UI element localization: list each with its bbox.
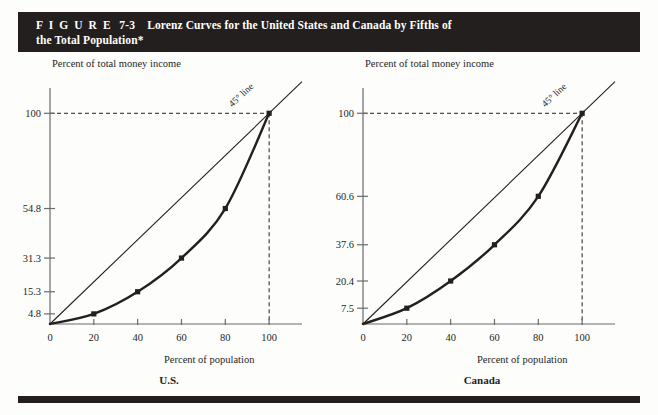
- bottom-rule: [18, 396, 640, 403]
- data-point-marker: [404, 306, 409, 311]
- y-tick-label: 7.5: [341, 303, 354, 314]
- data-point-marker: [135, 289, 140, 294]
- y-tick-label: 37.6: [336, 239, 354, 250]
- figure-page: F I G U R E7-3Lorenz Curves for the Unit…: [0, 0, 658, 415]
- figure-word-label: F I G U R E: [36, 19, 112, 31]
- figure-title-banner: F I G U R E7-3Lorenz Curves for the Unit…: [18, 12, 640, 52]
- x-tick-label: 40: [132, 332, 143, 343]
- y-tick-label: 15.3: [23, 286, 41, 297]
- figure-title-line-1: Lorenz Curves for the United States and …: [147, 19, 451, 31]
- y-tick-label: 54.8: [23, 203, 41, 214]
- figure-title-line-2: the Total Population*: [36, 34, 144, 46]
- equality-line: [50, 82, 302, 324]
- lorenz-plot-us: 4.815.331.354.810002040608010045° line: [14, 58, 324, 358]
- x-tick-label: 80: [533, 332, 544, 343]
- data-point-marker: [223, 206, 228, 211]
- chart-panel-us: Percent of total money income 4.815.331.…: [14, 58, 324, 393]
- x-tick-label: 60: [176, 332, 187, 343]
- data-point-marker: [536, 194, 541, 199]
- x-tick-label: 60: [489, 332, 500, 343]
- y-tick-label: 100: [338, 108, 354, 119]
- equality-line: [363, 82, 615, 324]
- data-point-marker: [492, 242, 497, 247]
- y-tick-label: 31.3: [23, 253, 41, 264]
- lorenz-plot-canada: 7.520.437.660.610002040608010045° line: [327, 58, 637, 358]
- y-tick-label: 4.8: [28, 308, 41, 319]
- svg-text:45° line: 45° line: [540, 81, 569, 109]
- y-tick-label: 20.4: [336, 276, 355, 287]
- data-point-marker: [91, 311, 96, 316]
- data-point-marker: [580, 111, 585, 116]
- svg-text:45° line: 45° line: [227, 81, 256, 109]
- x-tick-label: 80: [220, 332, 231, 343]
- x-axis-title-canada: Percent of population: [477, 354, 567, 365]
- data-point-marker: [179, 255, 184, 260]
- figure-title-text: F I G U R E7-3Lorenz Curves for the Unit…: [36, 18, 606, 48]
- y-tick-label: 60.6: [336, 191, 354, 202]
- figure-number: 7-3: [119, 19, 135, 31]
- x-tick-label: 20: [402, 332, 413, 343]
- x-tick-label: 0: [360, 332, 365, 343]
- x-tick-label: 100: [261, 332, 277, 343]
- x-tick-label: 20: [89, 332, 100, 343]
- x-tick-label: 0: [47, 332, 52, 343]
- y-tick-label: 100: [25, 108, 41, 119]
- x-axis-title-us: Percent of population: [164, 354, 254, 365]
- x-tick-label: 40: [445, 332, 456, 343]
- panel-caption-us: U.S.: [14, 374, 324, 386]
- equality-line-annotation: 45° line: [540, 81, 569, 109]
- chart-panel-canada: Percent of total money income 7.520.437.…: [327, 58, 637, 393]
- x-tick-label: 100: [574, 332, 590, 343]
- data-point-marker: [448, 278, 453, 283]
- panel-caption-canada: Canada: [327, 374, 637, 386]
- data-point-marker: [267, 111, 272, 116]
- equality-line-annotation: 45° line: [227, 81, 256, 109]
